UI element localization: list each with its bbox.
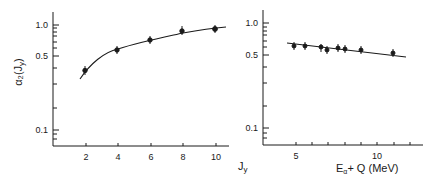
x-tick-label: 5 xyxy=(293,151,298,161)
x-tick-label: 8 xyxy=(180,152,185,162)
data-point xyxy=(115,46,119,54)
data-point xyxy=(213,25,218,33)
x-tick-label: 6 xyxy=(148,152,153,162)
y-tick-label: 0.1 xyxy=(245,123,258,133)
x-tick-label: 2 xyxy=(83,152,88,162)
y-tick-label: 0.1 xyxy=(35,125,48,135)
right-data-points xyxy=(292,42,395,57)
right-y-ticks xyxy=(263,23,269,138)
right-tick-labels: 1.0 0.5 0.1 5 10 xyxy=(245,18,382,161)
left-chart xyxy=(53,12,229,146)
data-point xyxy=(148,36,152,44)
y-tick-label: 1.0 xyxy=(245,18,258,28)
left-y-axis-label: α₂(Jy) xyxy=(12,58,26,85)
x-tick-label: 4 xyxy=(115,152,120,162)
left-tick-labels: 1.0 0.5 0.1 2 4 6 8 10 xyxy=(35,20,221,162)
right-x-axis-label: Eα+ Q (MeV) xyxy=(336,162,398,175)
left-x-axis-label: Jy xyxy=(238,160,248,174)
left-data-points xyxy=(83,25,218,75)
y-tick-label: 0.5 xyxy=(35,51,48,61)
figure: 1.0 0.5 0.1 2 4 6 8 10 α₂(Jy) Jy xyxy=(0,0,432,186)
left-y-ticks xyxy=(53,25,59,139)
right-chart xyxy=(263,10,423,145)
y-tick-label: 0.5 xyxy=(245,50,258,60)
data-point xyxy=(336,44,340,52)
left-fit-curve xyxy=(80,27,226,79)
data-point xyxy=(359,46,363,54)
svg-text:α₂(Jy): α₂(Jy) xyxy=(12,58,26,85)
y-tick-label: 1.0 xyxy=(35,20,48,30)
x-tick-label: 10 xyxy=(372,151,382,161)
data-point xyxy=(343,45,347,53)
data-point xyxy=(303,42,307,50)
data-point xyxy=(319,44,323,52)
x-tick-label: 10 xyxy=(211,152,221,162)
